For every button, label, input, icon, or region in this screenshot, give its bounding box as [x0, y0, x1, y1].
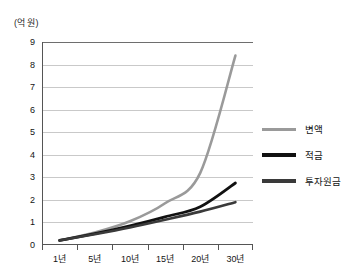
legend-swatch-line-icon: [262, 128, 296, 131]
x-axis-tick-mark: [112, 245, 113, 250]
y-axis-tick-label: 3: [9, 173, 35, 182]
legend-item-label: 변액: [305, 122, 323, 136]
x-axis-tick-mark: [183, 245, 184, 250]
x-axis-tick-mark: [77, 245, 78, 250]
y-axis-tick-label: 7: [9, 83, 35, 92]
y-axis-tick-label: 9: [9, 38, 35, 47]
legend-item-label: 적금: [305, 148, 323, 162]
x-axis-tick-label: 20년: [183, 252, 217, 265]
y-axis-tick-label: 2: [9, 196, 35, 205]
y-axis-tick-label: 4: [9, 151, 35, 160]
chart-container: (억 원) 0123456789 1년5년10년15년20년30년 변액적금투자…: [0, 0, 359, 278]
x-axis-tick-mark: [148, 245, 149, 250]
legend-item[interactable]: 투자원금: [262, 168, 358, 194]
x-axis-tick-mark: [218, 245, 219, 250]
chart-legend: 변액적금투자원금: [262, 116, 358, 194]
legend-swatch-line-icon: [262, 153, 296, 157]
legend-swatch-line-icon: [262, 179, 296, 183]
y-axis-tick-label: 1: [9, 218, 35, 227]
legend-item[interactable]: 변액: [262, 116, 358, 142]
data-curves: [42, 42, 253, 245]
x-axis-tick-label: 30년: [218, 252, 252, 265]
y-axis-tick-label: 0: [9, 241, 35, 250]
x-axis-tick-mark: [42, 245, 43, 250]
y-axis-tick-label: 5: [9, 128, 35, 137]
x-axis-tick-mark: [252, 245, 253, 250]
x-axis-tick-label: 5년: [78, 252, 112, 265]
series-line: [60, 56, 236, 241]
series-line: [60, 183, 236, 241]
legend-item-label: 투자원금: [305, 174, 341, 188]
x-axis-tick-label: 15년: [148, 252, 182, 265]
plot-area: [42, 42, 253, 245]
y-axis-unit-label: (억 원): [14, 16, 39, 29]
y-axis-tick-label: 8: [9, 61, 35, 70]
y-axis-tick-label: 6: [9, 106, 35, 115]
legend-item[interactable]: 적금: [262, 142, 358, 168]
x-axis-tick-label: 10년: [113, 252, 147, 265]
x-axis-tick-label: 1년: [43, 252, 77, 265]
